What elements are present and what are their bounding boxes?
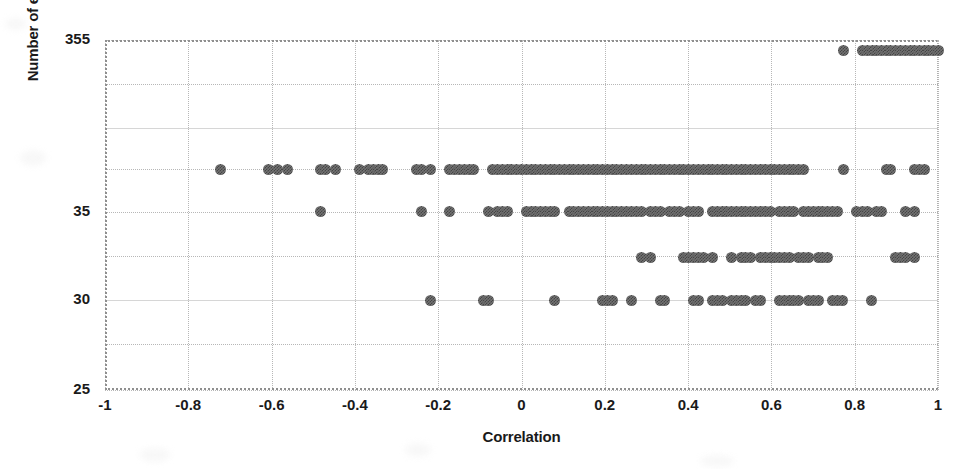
x-tick-label: -0.2 <box>408 396 468 413</box>
scatter-point <box>813 295 824 306</box>
scatter-point <box>798 164 809 175</box>
scatter-point <box>822 252 833 263</box>
scatter-point <box>876 206 887 217</box>
y-tick-label: 30 <box>18 290 90 307</box>
scatter-point <box>215 164 226 175</box>
gridline-vertical <box>355 40 356 390</box>
scatter-point <box>707 252 718 263</box>
x-tick-label: 0 <box>492 396 552 413</box>
scatter-point <box>607 295 618 306</box>
scatter-point <box>755 295 766 306</box>
scatter-point <box>933 45 944 56</box>
scatter-point <box>909 206 920 217</box>
x-tick-label: -0.8 <box>158 396 218 413</box>
x-axis-title: Correlation <box>105 428 938 445</box>
x-tick-label: 0.4 <box>658 396 718 413</box>
scatter-point <box>838 164 849 175</box>
x-tick-label: -1 <box>75 396 135 413</box>
plot-border-right <box>937 40 938 390</box>
scatter-point <box>416 206 427 217</box>
scatter-point <box>444 206 455 217</box>
scan-artifact <box>700 455 734 467</box>
scatter-point <box>425 164 436 175</box>
scatter-point <box>693 295 704 306</box>
scatter-point <box>645 252 656 263</box>
scan-artifact <box>20 150 46 166</box>
y-tick-label: 35 <box>18 202 90 219</box>
gridline-horizontal <box>105 390 938 391</box>
y-axis-title: Number of elements <box>14 0 50 136</box>
x-tick-label: 0.6 <box>741 396 801 413</box>
scatter-point <box>483 295 494 306</box>
y-tick-label: 25 <box>18 380 90 397</box>
scatter-point <box>549 206 560 217</box>
chart-figure: Number of elements Correlation 355353025… <box>0 0 976 469</box>
gridline-vertical <box>938 40 939 390</box>
scatter-point <box>909 252 920 263</box>
scatter-point <box>330 164 341 175</box>
x-axis-line <box>105 388 938 390</box>
scatter-point <box>919 164 930 175</box>
scatter-point <box>832 206 843 217</box>
scatter-point <box>549 295 560 306</box>
scatter-point <box>866 295 877 306</box>
scatter-point <box>659 295 670 306</box>
scatter-point <box>425 295 436 306</box>
x-tick-label: -0.6 <box>242 396 302 413</box>
scan-artifact <box>405 443 431 457</box>
scatter-point <box>468 164 479 175</box>
scatter-point <box>885 164 896 175</box>
scatter-point <box>693 206 704 217</box>
scatter-point <box>282 164 293 175</box>
x-tick-label: 1 <box>908 396 968 413</box>
gridline-horizontal <box>105 344 938 345</box>
x-tick-label: -0.4 <box>325 396 385 413</box>
x-tick-label: 0.8 <box>825 396 885 413</box>
scatter-point <box>502 206 513 217</box>
x-tick-label: 0.2 <box>575 396 635 413</box>
gridline-vertical <box>188 40 189 390</box>
gridline-horizontal <box>105 128 938 129</box>
scatter-point <box>838 45 849 56</box>
y-axis-line <box>105 40 107 390</box>
scatter-point <box>315 206 326 217</box>
scatter-point <box>377 164 388 175</box>
plot-area <box>105 40 938 390</box>
gridline-vertical <box>438 40 439 390</box>
scatter-point <box>626 295 637 306</box>
scatter-point <box>837 295 848 306</box>
gridline-vertical <box>272 40 273 390</box>
scan-artifact <box>140 448 170 462</box>
gridline-horizontal <box>105 84 938 85</box>
plot-border-top <box>105 40 938 42</box>
